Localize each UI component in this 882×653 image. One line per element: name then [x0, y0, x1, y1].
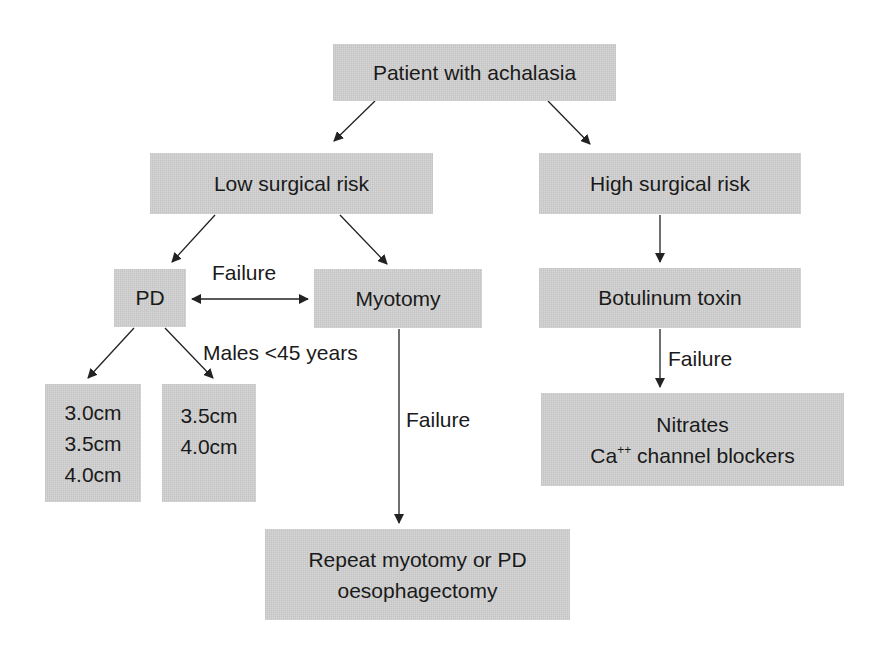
edge-label-males-under-45: Males <45 years	[203, 341, 358, 365]
node-botulinum-toxin: Botulinum toxin	[539, 268, 801, 328]
node-high-surgical-risk: High surgical risk	[539, 153, 801, 214]
node-label-line1: Repeat myotomy or PD	[308, 544, 526, 575]
node-repeat-myotomy-or-pd: Repeat myotomy or PD oesophagectomy	[265, 529, 570, 620]
arrow-root-to-high	[548, 101, 590, 144]
node-label: Botulinum toxin	[598, 285, 742, 311]
node-myotomy: Myotomy	[314, 269, 482, 328]
node-patient-with-achalasia: Patient with achalasia	[333, 44, 616, 101]
size-line: 3.5cm	[64, 428, 121, 459]
arrow-pd-to-sizes-general	[88, 328, 134, 378]
size-line: 4.0cm	[64, 459, 121, 490]
arrow-low-to-myotomy	[340, 215, 387, 264]
node-label: Myotomy	[355, 286, 440, 312]
edge-label-myotomy-failure: Failure	[406, 408, 470, 432]
node-nitrates-ca-channel-blockers: Nitrates Ca++ channel blockers	[541, 393, 844, 486]
arrow-low-to-pd	[172, 215, 215, 262]
edge-label-pd-myotomy-failure: Failure	[212, 261, 276, 285]
node-label: Low surgical risk	[214, 171, 369, 197]
node-label: PD	[135, 285, 164, 311]
node-label: High surgical risk	[590, 171, 750, 197]
size-line: 4.0cm	[180, 431, 237, 462]
node-label-line1: Nitrates	[656, 409, 728, 440]
node-low-surgical-risk: Low surgical risk	[150, 153, 433, 214]
arrow-root-to-low	[334, 101, 375, 141]
node-pd: PD	[114, 269, 186, 327]
node-label-line2: oesophagectomy	[338, 575, 498, 606]
node-label: Patient with achalasia	[373, 60, 576, 86]
node-dilator-sizes-males: 3.5cm 4.0cm	[162, 384, 256, 502]
edge-label-botulinum-failure: Failure	[668, 347, 732, 371]
size-line: 3.5cm	[180, 400, 237, 431]
node-label-line2: Ca++ channel blockers	[590, 440, 794, 471]
node-dilator-sizes-general: 3.0cm 3.5cm 4.0cm	[45, 384, 141, 502]
size-line: 3.0cm	[64, 397, 121, 428]
